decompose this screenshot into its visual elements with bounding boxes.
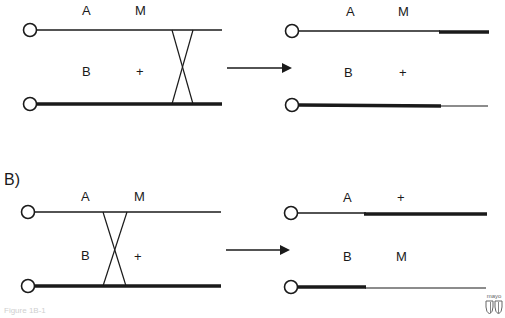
centromere-circle [24,98,37,111]
crossover-diagram [0,0,505,318]
locus-label: + [136,65,144,78]
locus-label: M [134,190,145,203]
bottom-chromosome-thick [299,105,441,106]
centromere-circle [286,25,299,38]
locus-label: + [397,191,405,204]
locus-label: A [343,191,352,204]
panel-b-label: B) [4,172,20,188]
locus-label: M [135,4,146,17]
centromere-circle [286,99,299,112]
centromere-circle [285,281,298,294]
locus-label: B [344,66,353,79]
centromere-circle [22,280,35,293]
locus-label: B [81,249,90,262]
panel-b-after [285,207,488,294]
locus-label: B [343,250,352,263]
centromere-circle [285,207,298,220]
locus-label: B [82,65,91,78]
locus-label: M [396,250,407,263]
mayo-logo: mayo [484,293,504,315]
panel-a-before [24,24,223,111]
locus-label: M [398,5,409,18]
arrow-a [227,63,292,73]
locus-label: A [81,190,90,203]
locus-label: + [399,66,407,79]
shield-icon [484,293,504,315]
centromere-circle [22,206,35,219]
locus-label: A [346,5,355,18]
centromere-circle [24,24,37,37]
locus-label: + [134,250,142,263]
arrow-b [226,245,290,255]
panel-b-before [22,206,222,293]
locus-label: A [82,4,91,17]
figure-caption: Figure 1B-1 [4,306,46,315]
panel-a-after [286,25,490,112]
